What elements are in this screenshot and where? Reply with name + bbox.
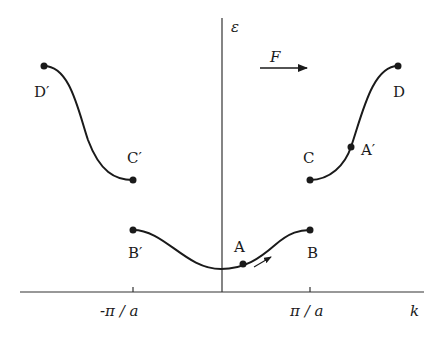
upper-band-left-curve <box>44 66 133 180</box>
point-a-prime <box>348 144 355 151</box>
point-b-prime <box>130 227 137 234</box>
tick-label-neg-pi-a: -π / a <box>100 302 138 320</box>
upper-band-right-curve <box>310 66 398 180</box>
k-axis-label: k <box>410 302 419 320</box>
label-a-prime: A′ <box>360 141 376 159</box>
force-label: F <box>269 48 281 66</box>
label-d: D <box>393 83 405 101</box>
band-diagram: ε k -π / a π / a F D′ C′ B′ A B C A′ D <box>0 0 439 354</box>
label-b-prime: B′ <box>128 244 143 262</box>
label-b: B <box>307 244 318 262</box>
label-d-prime: D′ <box>34 83 50 101</box>
tick-label-pi-a: π / a <box>289 302 323 320</box>
point-d-prime <box>41 63 48 70</box>
energy-axis-label: ε <box>231 18 239 36</box>
label-a: A <box>233 238 245 256</box>
point-c-prime <box>130 177 137 184</box>
point-d <box>395 63 402 70</box>
point-a <box>240 261 247 268</box>
point-c <box>307 177 314 184</box>
label-c-prime: C′ <box>127 149 142 167</box>
point-b <box>307 227 314 234</box>
label-c: C <box>303 149 314 167</box>
